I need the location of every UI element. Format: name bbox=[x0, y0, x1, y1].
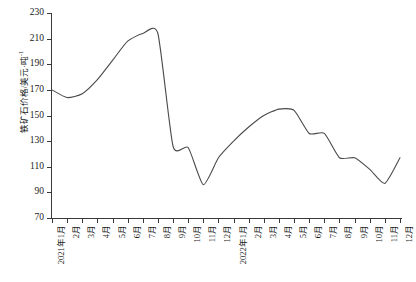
x-axis-tickmark bbox=[113, 219, 114, 223]
x-axis-ticklabel: 12月 bbox=[404, 225, 414, 243]
x-axis-ticklabel: 3月 bbox=[268, 225, 278, 238]
x-axis-ticklabel: 10月 bbox=[374, 225, 384, 243]
y-axis-ticklabel: 170 bbox=[18, 85, 44, 95]
x-axis-ticklabel: 7月 bbox=[147, 225, 157, 238]
x-axis-tickmark bbox=[203, 219, 204, 223]
x-axis-tickmark bbox=[188, 219, 189, 223]
x-axis-tickmark bbox=[218, 219, 219, 223]
x-axis-tickmark bbox=[339, 219, 340, 223]
x-axis-ticklabel: 6月 bbox=[132, 225, 142, 238]
line-series-iron-ore-price bbox=[51, 13, 401, 219]
y-axis-ticklabel: 70 bbox=[18, 213, 44, 223]
x-axis-ticklabel: 5月 bbox=[298, 225, 308, 238]
y-axis-ticklabel: 130 bbox=[18, 136, 44, 146]
y-axis-ticklabels: 2302101901701501301109070 bbox=[18, 0, 44, 282]
x-axis-tickmark bbox=[324, 219, 325, 223]
x-axis-tickmark bbox=[385, 219, 386, 223]
y-axis-ticklabel: 150 bbox=[18, 111, 44, 121]
x-axis-tickmark bbox=[52, 219, 53, 223]
x-axis-ticklabel: 6月 bbox=[313, 225, 323, 238]
x-axis-ticklabel: 2月 bbox=[253, 225, 263, 238]
plot-area: 2021年1月2月3月4月5月6月7月8月9月10月11月12月2022年1月2… bbox=[51, 13, 401, 218]
chart-figure: 铁矿石价格/美元·吨-1 2302101901701501301109070 2… bbox=[0, 0, 416, 282]
x-axis-ticklabel: 10月 bbox=[192, 225, 202, 243]
x-axis-tickmark bbox=[67, 219, 68, 223]
x-axis-ticklabel: 8月 bbox=[162, 225, 172, 238]
y-axis-ticklabel: 230 bbox=[18, 8, 44, 18]
x-axis-ticklabel: 2021年1月 bbox=[56, 225, 66, 264]
x-axis-ticklabel: 4月 bbox=[283, 225, 293, 238]
x-axis-ticklabel: 7月 bbox=[328, 225, 338, 238]
y-axis-ticklabel: 210 bbox=[18, 34, 44, 44]
x-axis-tickmark bbox=[234, 219, 235, 223]
x-axis-tickmark bbox=[143, 219, 144, 223]
x-axis-tickmark bbox=[309, 219, 310, 223]
x-axis-ticklabel: 2022年1月 bbox=[238, 225, 248, 264]
x-axis-tickmark bbox=[158, 219, 159, 223]
x-axis-tickmark bbox=[264, 219, 265, 223]
x-axis-ticklabel: 8月 bbox=[343, 225, 353, 238]
x-axis-tickmark bbox=[400, 219, 401, 223]
x-axis-tickmark bbox=[355, 219, 356, 223]
x-axis-tickmark bbox=[279, 219, 280, 223]
x-axis-ticklabel: 9月 bbox=[177, 225, 187, 238]
x-axis-ticklabel: 11月 bbox=[389, 225, 399, 242]
x-axis-tickmark bbox=[128, 219, 129, 223]
x-axis-ticklabel: 3月 bbox=[86, 225, 96, 238]
series-line bbox=[52, 28, 400, 184]
x-axis-tickmark bbox=[249, 219, 250, 223]
x-axis-ticklabel: 4月 bbox=[101, 225, 111, 238]
x-axis-ticklabel: 2月 bbox=[71, 225, 81, 238]
y-axis-ticklabel: 110 bbox=[18, 162, 44, 172]
x-axis-tickmark bbox=[82, 219, 83, 223]
y-axis-ticklabel: 90 bbox=[18, 187, 44, 197]
x-axis-tickmark bbox=[370, 219, 371, 223]
x-axis-ticklabel: 12月 bbox=[222, 225, 232, 243]
x-axis-tickmark bbox=[173, 219, 174, 223]
x-axis-ticklabel: 5月 bbox=[117, 225, 127, 238]
y-axis-ticklabel: 190 bbox=[18, 59, 44, 69]
x-axis-tickmark bbox=[294, 219, 295, 223]
x-axis-tickmark bbox=[97, 219, 98, 223]
x-axis-ticklabel: 9月 bbox=[359, 225, 369, 238]
x-axis-ticklabel: 11月 bbox=[207, 225, 217, 242]
